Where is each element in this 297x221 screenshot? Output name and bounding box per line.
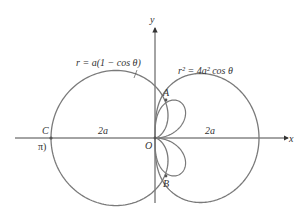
lemniscate-equation-label: r² = 4a² cos θ	[178, 66, 233, 76]
right-dimension-label: 2a	[205, 126, 215, 136]
point-b-label: B	[163, 179, 169, 189]
polar-curves-diagram	[0, 0, 297, 221]
origin-label: O	[145, 141, 152, 151]
point-a-dot	[165, 99, 168, 102]
y-axis-label: y	[150, 15, 154, 25]
left-dimension-label: 2a	[98, 126, 108, 136]
point-b-dot	[165, 175, 168, 178]
x-axis-label: x	[289, 134, 293, 144]
point-c-note: π)	[38, 142, 46, 152]
cardioid-equation-label: r = a(1 − cos θ)	[76, 58, 141, 68]
point-c-dot	[49, 136, 52, 139]
origin-dot	[154, 137, 157, 140]
point-c-label: C	[42, 126, 49, 136]
point-a-label: A	[163, 88, 169, 98]
